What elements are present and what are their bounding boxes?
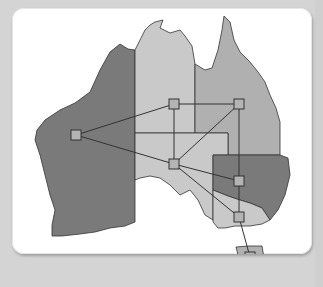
scroll-edge (315, 0, 323, 287)
node-nsw (234, 176, 244, 186)
node-tas (245, 252, 255, 254)
region-nt (135, 20, 195, 133)
node-wa (71, 130, 81, 140)
map-card (12, 8, 312, 254)
node-sa (169, 159, 179, 169)
node-qld (234, 99, 244, 109)
figure-caption-cut-off (0, 0, 323, 4)
region-wa (35, 44, 135, 236)
node-nt (169, 99, 179, 109)
australia-map (12, 8, 312, 254)
node-vic (234, 212, 244, 222)
